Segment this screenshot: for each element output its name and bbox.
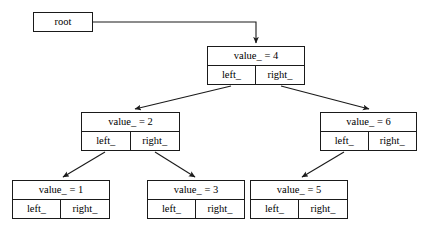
- tree-node-value-5[interactable]: value_ = 5 left_ right_: [250, 180, 348, 219]
- node-right-pointer[interactable]: right_: [61, 200, 109, 219]
- edge-node4-right-to-node6: [281, 86, 369, 109]
- node-left-pointer[interactable]: left_: [208, 66, 256, 85]
- node-value-field: value_ = 3: [148, 181, 244, 200]
- node-pointer-row: left_ right_: [321, 132, 416, 151]
- node-value-field: value_ = 1: [13, 181, 109, 200]
- tree-node-value-4[interactable]: value_ = 4 left_ right_: [207, 46, 305, 85]
- edge-root-to-node4: [93, 22, 256, 43]
- tree-node-value-6[interactable]: value_ = 6 left_ right_: [320, 112, 417, 151]
- edge-node6-left-to-node5: [302, 152, 344, 177]
- edge-node2-right-to-node3: [155, 152, 195, 177]
- node-pointer-row: left_ right_: [13, 200, 109, 219]
- root-pointer-box[interactable]: root: [33, 12, 93, 32]
- node-value-field: value_ = 6: [321, 113, 416, 132]
- tree-node-value-1[interactable]: value_ = 1 left_ right_: [12, 180, 110, 219]
- node-right-pointer[interactable]: right_: [369, 132, 417, 151]
- node-value-field: value_ = 4: [208, 47, 304, 66]
- tree-diagram-canvas: root value_ = 4 left_ right_ value_ = 2 …: [0, 0, 427, 238]
- tree-node-value-2[interactable]: value_ = 2 left_ right_: [81, 112, 180, 151]
- node-value-field: value_ = 2: [82, 113, 179, 132]
- node-left-pointer[interactable]: left_: [321, 132, 369, 151]
- node-right-pointer[interactable]: right_: [131, 132, 180, 151]
- edge-node2-left-to-node1: [63, 152, 105, 177]
- node-right-pointer[interactable]: right_: [299, 200, 347, 219]
- tree-node-value-3[interactable]: value_ = 3 left_ right_: [147, 180, 245, 219]
- root-pointer-label: root: [55, 16, 72, 27]
- node-left-pointer[interactable]: left_: [13, 200, 61, 219]
- node-pointer-row: left_ right_: [148, 200, 244, 219]
- node-right-pointer[interactable]: right_: [196, 200, 244, 219]
- node-left-pointer[interactable]: left_: [251, 200, 299, 219]
- node-value-field: value_ = 5: [251, 181, 347, 200]
- edge-node4-left-to-node2: [135, 86, 231, 109]
- node-pointer-row: left_ right_: [82, 132, 179, 151]
- node-pointer-row: left_ right_: [208, 66, 304, 85]
- node-pointer-row: left_ right_: [251, 200, 347, 219]
- node-left-pointer[interactable]: left_: [148, 200, 196, 219]
- node-right-pointer[interactable]: right_: [256, 66, 304, 85]
- node-left-pointer[interactable]: left_: [82, 132, 131, 151]
